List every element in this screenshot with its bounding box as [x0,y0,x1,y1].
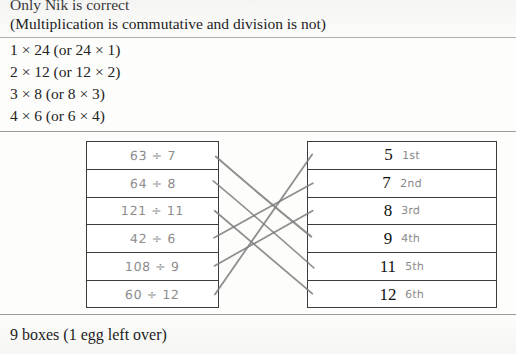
answer-cell[interactable]: 7 2nd [308,170,496,198]
answer-ordinal: 3rd [401,204,421,217]
division-cell[interactable]: 60 ÷ 12 [87,281,218,309]
division-expression: 121 ÷ 11 [121,203,185,218]
division-cell[interactable]: 42 ÷ 6 [87,225,218,253]
division-column: 63 ÷ 7 64 ÷ 8 121 ÷ 11 42 ÷ 6 108 ÷ 9 60… [86,141,219,308]
division-cell[interactable]: 108 ÷ 9 [87,253,218,281]
answer-value: 5 [384,145,393,165]
division-expression: 42 ÷ 6 [129,231,175,246]
matching-exercise: 63 ÷ 7 64 ÷ 8 121 ÷ 11 42 ÷ 6 108 ÷ 9 60… [0,0,516,354]
answer-cell[interactable]: 8 3rd [308,198,496,226]
answer-value: 12 [379,285,396,305]
worksheet-page: Only Nik is correct (Multiplication is c… [0,0,516,354]
division-cell[interactable]: 63 ÷ 7 [87,142,218,170]
answer-ordinal: 5th [405,260,425,273]
answer-cell[interactable]: 9 4th [308,225,496,253]
answer-value: 9 [384,229,393,249]
answer-ordinal: 4th [401,232,421,245]
answer-cell[interactable]: 11 5th [308,253,496,281]
answer-value: 7 [382,173,391,193]
divider-rule-3 [0,314,516,315]
connector-line [214,211,312,266]
answer-value: 11 [380,257,396,277]
answer-value: 8 [384,201,393,221]
connector-line [215,154,312,294]
answer-ordinal: 1st [402,149,420,162]
division-expression: 60 ÷ 12 [125,287,180,302]
division-expression: 64 ÷ 8 [129,176,175,191]
division-cell[interactable]: 64 ÷ 8 [87,170,218,198]
division-expression: 108 ÷ 9 [125,259,180,274]
answer-cell[interactable]: 12 6th [308,281,496,309]
answer-cell[interactable]: 5 1st [308,142,496,170]
division-expression: 63 ÷ 7 [129,148,175,163]
connector-line [213,181,314,268]
connector-line [215,211,313,294]
answer-ordinal: 2nd [400,177,422,190]
answer-ordinal: 6th [405,288,425,301]
answer-column: 5 1st 7 2nd 8 3rd 9 4th 11 5th 12 6th [307,141,497,308]
division-cell[interactable]: 121 ÷ 11 [87,198,218,226]
connector-line [216,157,311,237]
footer-answer: 9 boxes (1 egg left over) [10,326,167,344]
connector-line [214,183,313,238]
